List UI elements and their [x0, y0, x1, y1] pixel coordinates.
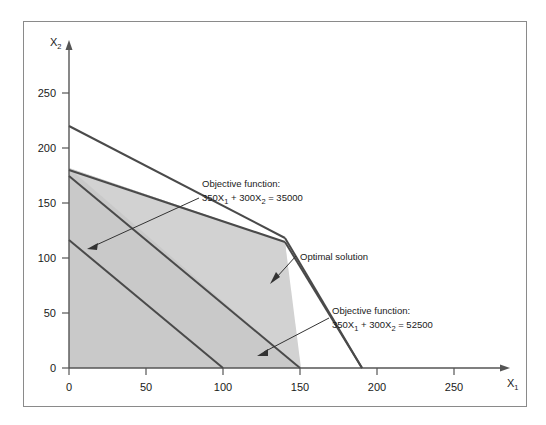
x-tick-label-250: 250 [445, 381, 463, 393]
y-tick-label-200: 200 [38, 142, 56, 154]
x-tick-label-200: 200 [368, 381, 386, 393]
annotation-objective-35000-line1: Objective function: [202, 178, 280, 189]
linear-programming-plot: 0 50 100 150 200 250 0 50 100 150 200 25… [24, 22, 528, 408]
y-axis-title: X2 [50, 36, 62, 51]
y-tick-label-100: 100 [38, 252, 56, 264]
x-tick-label-150: 150 [291, 381, 309, 393]
annotation-objective-52500-equation: 350X1 + 300X2 = 52500 [332, 319, 433, 333]
x-tick-marks [69, 368, 454, 375]
annotation-objective-52500-line1: Objective function: [332, 305, 410, 316]
y-tick-marks [62, 93, 69, 368]
x-tick-label-0: 0 [66, 381, 72, 393]
x-axis-arrow-icon [500, 365, 510, 372]
x-axis-title: X1 [507, 377, 519, 392]
y-tick-label-250: 250 [38, 87, 56, 99]
annotation-optimal-solution-label: Optimal solution [300, 251, 368, 262]
x-tick-label-100: 100 [214, 381, 232, 393]
figure-page: 0 50 100 150 200 250 0 50 100 150 200 25… [0, 0, 546, 425]
y-tick-label-0: 0 [50, 362, 56, 374]
x-tick-label-50: 50 [140, 381, 152, 393]
y-tick-label-50: 50 [44, 307, 56, 319]
figure-frame: 0 50 100 150 200 250 0 50 100 150 200 25… [23, 21, 527, 407]
y-tick-label-150: 150 [38, 197, 56, 209]
y-axis-arrow-icon [66, 40, 73, 50]
